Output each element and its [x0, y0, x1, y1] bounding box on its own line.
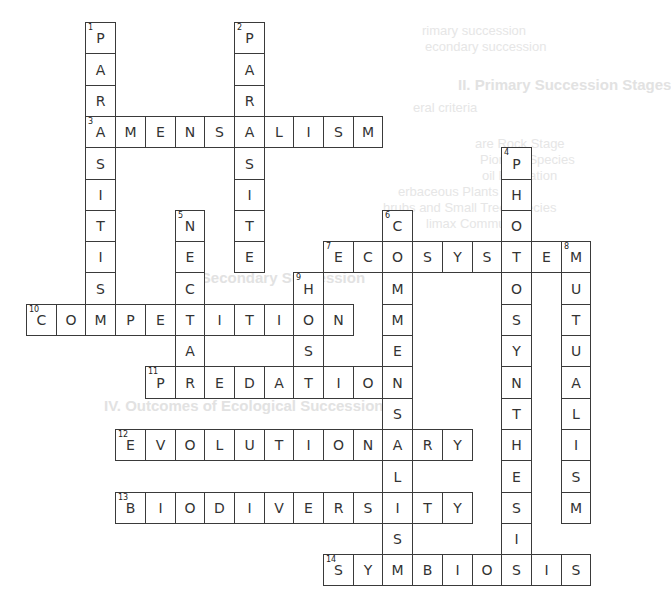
crossword-cell[interactable]: S	[412, 241, 443, 273]
crossword-cell[interactable]: E	[175, 241, 205, 273]
crossword-cell[interactable]: A	[234, 53, 265, 86]
crossword-cell[interactable]: S	[561, 460, 591, 493]
crossword-cell[interactable]: M	[382, 554, 413, 586]
crossword-cell[interactable]: B13	[115, 492, 146, 524]
crossword-cell[interactable]: S	[353, 492, 383, 524]
crossword-cell[interactable]: S	[501, 304, 532, 336]
crossword-cell[interactable]: I	[85, 241, 116, 273]
crossword-cell[interactable]: O	[323, 429, 354, 461]
crossword-cell[interactable]: P1	[85, 22, 116, 54]
crossword-cell[interactable]: E	[531, 241, 562, 273]
crossword-cell[interactable]: T	[264, 429, 294, 461]
crossword-cell[interactable]: P11	[145, 366, 176, 399]
crossword-cell[interactable]: C6	[382, 210, 413, 242]
crossword-cell[interactable]: L	[382, 460, 413, 493]
crossword-cell[interactable]: I	[293, 116, 324, 148]
crossword-cell[interactable]: I	[531, 554, 562, 586]
crossword-cell[interactable]: O	[175, 429, 205, 461]
crossword-cell[interactable]: I	[293, 429, 324, 461]
crossword-cell[interactable]: E	[501, 460, 532, 493]
crossword-cell[interactable]: A	[175, 335, 205, 367]
crossword-cell[interactable]: O	[56, 304, 86, 336]
crossword-cell[interactable]: T	[293, 366, 324, 399]
crossword-cell[interactable]: B	[412, 554, 443, 586]
crossword-cell[interactable]: T	[501, 241, 532, 273]
crossword-cell[interactable]: O	[382, 241, 413, 273]
crossword-cell[interactable]: M	[382, 304, 413, 336]
crossword-cell[interactable]: T	[561, 304, 591, 336]
crossword-cell[interactable]: E	[382, 335, 413, 367]
crossword-cell[interactable]: Y	[501, 335, 532, 367]
crossword-cell[interactable]: Y	[442, 429, 473, 461]
crossword-cell[interactable]: T	[234, 304, 265, 336]
crossword-cell[interactable]: D	[234, 366, 265, 399]
crossword-cell[interactable]: U	[561, 272, 591, 305]
crossword-cell[interactable]: A	[382, 429, 413, 461]
crossword-cell[interactable]: S	[501, 554, 532, 586]
crossword-cell[interactable]: I	[442, 554, 473, 586]
crossword-cell[interactable]: C10	[26, 304, 57, 336]
crossword-cell[interactable]: R	[234, 85, 265, 117]
crossword-cell[interactable]: U	[234, 429, 265, 461]
crossword-cell[interactable]: I	[382, 492, 413, 524]
crossword-cell[interactable]: P4	[501, 147, 532, 180]
crossword-cell[interactable]: T	[234, 210, 265, 242]
crossword-cell[interactable]: M	[115, 116, 146, 148]
crossword-cell[interactable]: E	[145, 116, 176, 148]
crossword-cell[interactable]: T	[85, 210, 116, 242]
crossword-cell[interactable]: N	[382, 366, 413, 399]
crossword-cell[interactable]: S	[561, 554, 591, 586]
crossword-cell[interactable]: T	[412, 492, 443, 524]
crossword-cell[interactable]: Y	[442, 492, 473, 524]
crossword-cell[interactable]: C	[353, 241, 383, 273]
crossword-cell[interactable]: O	[293, 304, 324, 336]
crossword-cell[interactable]: N	[353, 429, 383, 461]
crossword-cell[interactable]: P	[115, 304, 146, 336]
crossword-cell[interactable]: E7	[323, 241, 354, 273]
crossword-cell[interactable]: T	[175, 304, 205, 336]
crossword-cell[interactable]: S	[472, 241, 502, 273]
crossword-cell[interactable]: S	[382, 523, 413, 555]
crossword-cell[interactable]: R	[85, 85, 116, 117]
crossword-cell[interactable]: N5	[175, 210, 205, 242]
crossword-cell[interactable]: I	[323, 366, 354, 399]
crossword-cell[interactable]: I	[234, 179, 265, 211]
crossword-cell[interactable]: S14	[323, 554, 354, 586]
crossword-cell[interactable]: R	[412, 429, 443, 461]
crossword-cell[interactable]: E	[293, 492, 324, 524]
crossword-cell[interactable]: P2	[234, 22, 265, 54]
crossword-cell[interactable]: Y	[442, 241, 473, 273]
crossword-cell[interactable]: I	[234, 492, 265, 524]
crossword-cell[interactable]: S	[501, 492, 532, 524]
crossword-cell[interactable]: D	[204, 492, 235, 524]
crossword-cell[interactable]: V	[264, 492, 294, 524]
crossword-cell[interactable]: V	[145, 429, 176, 461]
crossword-cell[interactable]: E	[234, 241, 265, 273]
crossword-cell[interactable]: O	[353, 366, 383, 399]
crossword-cell[interactable]: R	[323, 492, 354, 524]
crossword-cell[interactable]: H9	[293, 272, 324, 305]
crossword-cell[interactable]: R	[175, 366, 205, 399]
crossword-cell[interactable]: S	[85, 147, 116, 180]
crossword-cell[interactable]: L	[204, 429, 235, 461]
crossword-cell[interactable]: S	[323, 116, 354, 148]
crossword-cell[interactable]: I	[561, 429, 591, 461]
crossword-cell[interactable]: C	[175, 272, 205, 305]
crossword-cell[interactable]: M	[382, 272, 413, 305]
crossword-cell[interactable]: A	[264, 366, 294, 399]
crossword-cell[interactable]: I	[501, 523, 532, 555]
crossword-cell[interactable]: I	[145, 492, 176, 524]
crossword-cell[interactable]: M8	[561, 241, 591, 273]
crossword-cell[interactable]: N	[175, 116, 205, 148]
crossword-cell[interactable]: O	[501, 272, 532, 305]
crossword-cell[interactable]: M	[85, 304, 116, 336]
crossword-cell[interactable]: E	[145, 304, 176, 336]
crossword-cell[interactable]: Y	[353, 554, 383, 586]
crossword-cell[interactable]: S	[293, 335, 324, 367]
crossword-cell[interactable]: H	[501, 429, 532, 461]
crossword-cell[interactable]: T	[501, 398, 532, 430]
crossword-cell[interactable]: I	[85, 179, 116, 211]
crossword-cell[interactable]: S	[85, 272, 116, 305]
crossword-cell[interactable]: S	[382, 398, 413, 430]
crossword-cell[interactable]: A3	[85, 116, 116, 148]
